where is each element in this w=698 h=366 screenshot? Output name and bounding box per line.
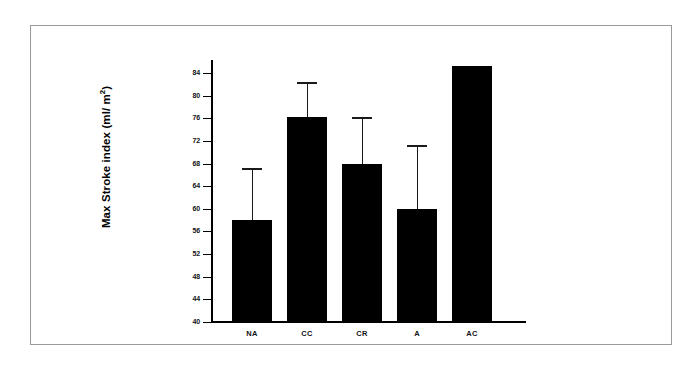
bar-a — [397, 209, 437, 322]
y-axis-tick-label-text: 48 — [172, 273, 200, 280]
y-axis-tick — [203, 73, 211, 74]
errorbar-stem-na — [252, 168, 253, 221]
y-axis-title-text: Max Stroke index (ml/ m — [100, 94, 112, 228]
errorbar-cap-cc — [297, 82, 317, 84]
y-axis-tick-label-text: 60 — [172, 205, 200, 212]
y-axis-tick-label-text: 56 — [172, 227, 200, 234]
y-axis-tick-label: 80 — [170, 92, 200, 100]
bar-cc — [287, 117, 327, 322]
errorbar-stem-a — [417, 145, 418, 208]
errorbar-stem-cr — [362, 117, 363, 164]
errorbar-stem-cc — [307, 82, 308, 117]
y-axis-title-suffix: ) — [100, 86, 112, 90]
y-axis-tick-label-text: 80 — [172, 92, 200, 99]
y-axis-tick-label: 40 — [170, 318, 200, 326]
y-axis-tick-label-text: 72 — [172, 137, 200, 144]
bar-chart-plot-area: Max Stroke index (ml/ m2) 40444852566064… — [0, 0, 698, 366]
y-axis-tick-label-text: 68 — [172, 160, 200, 167]
y-axis-tick-label-text: 76 — [172, 114, 200, 121]
y-axis-tick — [203, 186, 211, 187]
y-axis-tick-label-text: 52 — [172, 250, 200, 257]
y-axis-tick — [203, 164, 211, 165]
y-axis-tick — [203, 209, 211, 210]
y-axis-tick — [203, 231, 211, 232]
x-axis-tick-label-cr: CR — [342, 330, 382, 338]
y-axis-tick — [203, 299, 211, 300]
y-axis-tick-label: 52 — [170, 250, 200, 258]
y-axis-tick — [203, 141, 211, 142]
y-axis-title: Max Stroke index (ml/ m2) — [98, 47, 112, 267]
y-axis-tick — [203, 322, 211, 323]
errorbar-cap-a — [407, 145, 427, 147]
bar-ac — [452, 66, 492, 322]
y-axis-tick — [203, 118, 211, 119]
x-axis-tick-label-ac: AC — [452, 330, 492, 338]
y-axis-tick-label: 84 — [170, 69, 200, 77]
figure-root: Max Stroke index (ml/ m2) 40444852566064… — [0, 0, 698, 366]
x-axis-tick-label-a: A — [397, 330, 437, 338]
y-axis-tick-label: 64 — [170, 182, 200, 190]
errorbar-cap-cr — [352, 117, 372, 119]
y-axis-tick-label-text: 40 — [172, 318, 200, 325]
y-axis-tick-label-text: 84 — [172, 69, 200, 76]
bar-na — [232, 220, 272, 322]
y-axis-tick-label: 72 — [170, 137, 200, 145]
y-axis-tick-label: 76 — [170, 114, 200, 122]
x-axis-tick-label-cc: CC — [287, 330, 327, 338]
y-axis-tick-label-text: 44 — [172, 295, 200, 302]
y-axis-line — [211, 60, 213, 323]
y-axis-tick — [203, 254, 211, 255]
y-axis-tick-label: 60 — [170, 205, 200, 213]
y-axis-tick — [203, 96, 211, 97]
y-axis-tick-label: 56 — [170, 227, 200, 235]
y-axis-tick-label: 48 — [170, 273, 200, 281]
y-axis-title-superscript: 2 — [98, 90, 107, 94]
y-axis-tick-label-text: 64 — [172, 182, 200, 189]
y-axis-tick-label: 68 — [170, 160, 200, 168]
x-axis-tick-label-na: NA — [232, 330, 272, 338]
y-axis-tick — [203, 277, 211, 278]
y-axis-tick-label: 44 — [170, 295, 200, 303]
errorbar-cap-na — [242, 168, 262, 170]
bar-cr — [342, 164, 382, 322]
